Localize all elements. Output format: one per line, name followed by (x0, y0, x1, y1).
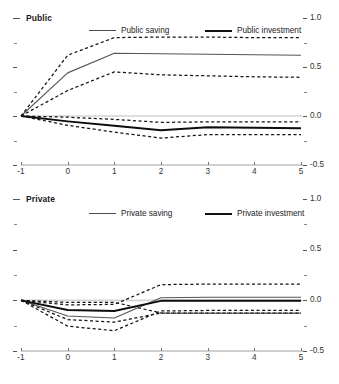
y-axis-tick-right (303, 165, 307, 166)
y-axis-label: 1.0 (310, 13, 321, 22)
y-axis-minor-tick-right (304, 92, 307, 93)
y-axis-tick-right (303, 67, 307, 68)
y-axis-minor-tick-left (14, 275, 17, 276)
y-axis-tick-right (303, 250, 307, 251)
y-axis-minor-tick-right (304, 141, 307, 142)
y-axis-tick-left (13, 18, 17, 19)
x-axis-label: -1 (14, 353, 28, 362)
x-axis-label: 1 (107, 167, 121, 176)
y-axis-minor-tick-right (304, 224, 307, 225)
y-axis-tick-right (303, 199, 307, 200)
x-axis-tick (301, 162, 302, 166)
y-axis-label: 0.5 (310, 244, 321, 253)
x-axis-label: 3 (201, 167, 215, 176)
x-axis-label: 5 (294, 353, 308, 362)
x-axis-label: -1 (14, 167, 28, 176)
x-axis-label: 4 (247, 353, 261, 362)
y-axis-minor-tick-left (14, 326, 17, 327)
y-axis-tick-left (13, 165, 17, 166)
x-axis-tick (68, 162, 69, 166)
x-axis-tick (254, 348, 255, 352)
x-axis-tick (114, 162, 115, 166)
y-axis-label: -0.5 (310, 346, 324, 355)
x-axis-label: 3 (201, 353, 215, 362)
y-axis-minor-tick-left (14, 43, 17, 44)
x-axis-tick (21, 162, 22, 166)
y-axis-tick-left (13, 67, 17, 68)
x-axis-tick (208, 348, 209, 352)
y-axis-minor-tick-left (14, 224, 17, 225)
x-axis-tick (254, 162, 255, 166)
x-axis-label: 0 (61, 353, 75, 362)
y-axis-tick-left (13, 250, 17, 251)
plot-area-public (0, 0, 339, 192)
x-axis-tick (301, 348, 302, 352)
y-axis-minor-tick-left (14, 141, 17, 142)
series-line (21, 300, 301, 322)
y-axis-minor-tick-right (304, 275, 307, 276)
panel-public: Public Public saving Public investment -… (0, 0, 339, 192)
y-axis-minor-tick-right (304, 43, 307, 44)
y-axis-minor-tick-right (304, 326, 307, 327)
panel-private: Private Private saving Private investmen… (0, 188, 339, 384)
figure-root: Public Public saving Public investment -… (0, 0, 339, 384)
x-axis-label: 5 (294, 167, 308, 176)
x-axis-label: 2 (154, 167, 168, 176)
plot-area-private (0, 188, 339, 384)
x-axis-tick (21, 348, 22, 352)
y-axis-minor-tick-left (14, 92, 17, 93)
y-axis-label: 0.5 (310, 62, 321, 71)
x-axis-tick (208, 162, 209, 166)
series-line (21, 116, 301, 130)
y-axis-tick-right (303, 116, 307, 117)
y-axis-tick-left (13, 300, 17, 301)
y-axis-label: -0.5 (310, 160, 324, 169)
y-axis-label: 0.0 (310, 111, 321, 120)
x-axis-tick (161, 162, 162, 166)
x-axis-label: 0 (61, 167, 75, 176)
y-axis-tick-right (303, 351, 307, 352)
x-axis-label: 1 (107, 353, 121, 362)
x-axis-tick (114, 348, 115, 352)
series-line (21, 72, 301, 116)
y-axis-label: 1.0 (310, 194, 321, 203)
y-axis-tick-right (303, 18, 307, 19)
y-axis-tick-left (13, 199, 17, 200)
series-line (21, 300, 301, 313)
x-axis-tick (68, 348, 69, 352)
y-axis-tick-left (13, 351, 17, 352)
series-line (21, 53, 301, 116)
y-axis-tick-right (303, 300, 307, 301)
x-axis-label: 4 (247, 167, 261, 176)
y-axis-tick-left (13, 116, 17, 117)
y-axis-label: 0.0 (310, 295, 321, 304)
x-axis-label: 2 (154, 353, 168, 362)
x-axis-tick (161, 348, 162, 352)
